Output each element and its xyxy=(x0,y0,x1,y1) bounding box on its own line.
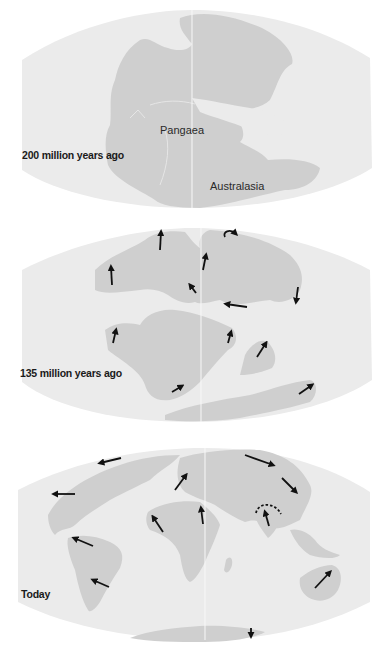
map-today xyxy=(0,430,377,650)
panel-today: Today xyxy=(0,430,377,650)
arrow-icon xyxy=(160,232,161,250)
period-label: Today xyxy=(21,588,50,600)
period-label: 200 million years ago xyxy=(22,149,124,161)
map-135mya xyxy=(0,210,377,430)
panel-135-million-years-ago: 135 million years ago xyxy=(0,210,377,430)
region-label-australasia: Australasia xyxy=(210,180,264,192)
period-label: 135 million years ago xyxy=(20,367,122,379)
map-200mya xyxy=(0,0,377,215)
arrow-icon xyxy=(111,267,112,285)
region-label-pangaea: Pangaea xyxy=(160,124,204,136)
panel-200-million-years-ago: 200 million years ago Pangaea Australasi… xyxy=(0,0,377,215)
